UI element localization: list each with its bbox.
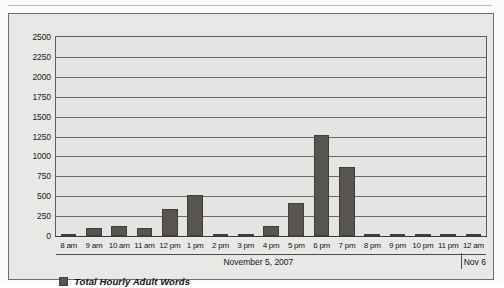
bar-slot <box>309 37 334 236</box>
bar <box>187 195 203 236</box>
x-tick-label: 10 pm <box>410 240 435 252</box>
x-tick-label: 9 pm <box>385 240 410 252</box>
bar <box>213 234 229 236</box>
bar-slot <box>208 37 233 236</box>
page-top-rule <box>8 5 492 6</box>
bar <box>86 228 102 236</box>
bar-slot <box>385 37 410 236</box>
bar <box>466 234 482 236</box>
bar-slot <box>360 37 385 236</box>
x-tick-label: 2 pm <box>208 240 233 252</box>
group-axis-separator <box>461 253 462 269</box>
bar-slot <box>132 37 157 236</box>
x-tick-label: 8 pm <box>360 240 385 252</box>
x-tick-label: 11 am <box>132 240 157 252</box>
y-tick-label-250: 250 <box>11 212 51 220</box>
y-tick-label-2000: 2000 <box>11 73 51 81</box>
x-tick-label: 6 pm <box>309 240 334 252</box>
x-tick-label: 10 am <box>107 240 132 252</box>
x-tick-label: 9 am <box>81 240 106 252</box>
y-tick-label-2500: 2500 <box>11 33 51 41</box>
group-axis-label: Nov 6 <box>461 256 486 269</box>
bar-slot <box>233 37 258 236</box>
y-tick-label-1500: 1500 <box>11 113 51 121</box>
group-axis-line <box>56 254 486 255</box>
bar-slot <box>81 37 106 236</box>
x-tick-label: 12 am <box>461 240 486 252</box>
bar-slot <box>56 37 81 236</box>
bar <box>339 167 355 236</box>
y-tick-label-1250: 1250 <box>11 133 51 141</box>
legend-label: Total Hourly Adult Words <box>74 276 190 287</box>
bar <box>415 234 431 236</box>
bar <box>288 203 304 236</box>
x-tick-label: 12 pm <box>157 240 182 252</box>
y-tick-label-0: 0 <box>11 232 51 240</box>
bar-slot <box>410 37 435 236</box>
bar <box>390 234 406 236</box>
y-tick-label-2250: 2250 <box>11 53 51 61</box>
chart-legend: Total Hourly Adult Words <box>59 274 190 288</box>
y-axis-tick-labels: 25002250200017501500125010007505002500 <box>9 36 51 237</box>
bar-slot <box>107 37 132 236</box>
y-tick-label-1000: 1000 <box>11 152 51 160</box>
bar-slot <box>284 37 309 236</box>
x-tick-label: 4 pm <box>258 240 283 252</box>
x-tick-label: 11 pm <box>435 240 460 252</box>
bar <box>137 228 153 236</box>
x-tick-label: 3 pm <box>233 240 258 252</box>
y-tick-label-750: 750 <box>11 172 51 180</box>
group-axis-labels: November 5, 2007Nov 6 <box>56 256 486 269</box>
bar-slot <box>435 37 460 236</box>
x-tick-label: 5 pm <box>284 240 309 252</box>
bar <box>61 234 77 236</box>
x-tick-label: 1 pm <box>182 240 207 252</box>
x-tick-label: 8 am <box>56 240 81 252</box>
group-axis-label: November 5, 2007 <box>56 256 461 269</box>
bar <box>111 226 127 236</box>
x-axis-tick-labels: 8 am9 am10 am11 am12 pm1 pm2 pm3 pm4 pm5… <box>56 240 486 252</box>
bar <box>314 135 330 236</box>
bar-slot <box>182 37 207 236</box>
bar-slot <box>334 37 359 236</box>
bar-slot <box>461 37 486 236</box>
bar <box>238 234 254 236</box>
legend-color-swatch <box>59 277 68 286</box>
x-tick-label: 7 pm <box>334 240 359 252</box>
bar <box>364 234 380 236</box>
bar-slot <box>258 37 283 236</box>
y-tick-label-1750: 1750 <box>11 93 51 101</box>
bar-slot <box>157 37 182 236</box>
bar <box>162 209 178 236</box>
bar <box>440 234 456 236</box>
bar-series-total-hourly-adult-words <box>56 37 486 236</box>
bar <box>263 226 279 236</box>
y-tick-label-500: 500 <box>11 192 51 200</box>
chart-frame: 25002250200017501500125010007505002500 8… <box>8 13 494 280</box>
